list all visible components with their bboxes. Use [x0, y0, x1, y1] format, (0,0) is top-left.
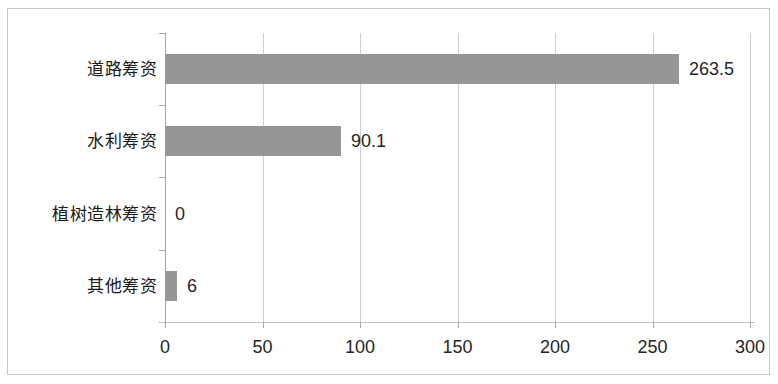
value-label-1: 263.5 [689, 59, 734, 79]
x-tick-label: 250 [623, 336, 683, 358]
bar[interactable] [165, 126, 341, 156]
category-label-text: 水利筹资 [5, 131, 157, 151]
x-tick-label: 300 [720, 336, 778, 358]
bar[interactable] [165, 271, 177, 301]
x-tick-mark [165, 322, 166, 328]
x-tick-mark [360, 322, 361, 328]
bar[interactable] [165, 54, 679, 84]
value-label-4: 6 [187, 276, 197, 296]
x-tick-label: 0 [135, 336, 195, 358]
x-tick-label: 100 [330, 336, 390, 358]
category-label-text: 道路筹资 [5, 59, 157, 79]
x-tick-mark [263, 322, 264, 328]
x-tick-mark [750, 322, 751, 328]
category-label-text: 植树造林筹资 [5, 204, 157, 224]
x-tick-mark [458, 322, 459, 328]
value-label-3: 0 [175, 204, 185, 224]
x-tick-label: 150 [428, 336, 488, 358]
x-tick-label: 200 [525, 336, 585, 358]
gridline-300 [750, 33, 751, 322]
x-tick-mark [555, 322, 556, 328]
value-label-2: 90.1 [351, 131, 386, 151]
x-tick-mark [653, 322, 654, 328]
category-label-text: 其他筹资 [5, 276, 157, 296]
x-tick-label: 50 [233, 336, 293, 358]
